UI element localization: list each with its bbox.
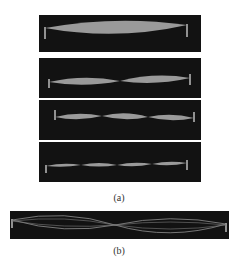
standing-wave-2-loops — [39, 58, 201, 98]
standing-wave-panel-mode-4 — [39, 142, 201, 182]
standing-wave-1-loop — [39, 15, 201, 52]
standing-wave-4-loops — [39, 142, 201, 182]
standing-wave-panel-mode-3 — [39, 100, 201, 140]
standing-wave-panel-mode-2 — [39, 58, 201, 98]
standing-wave-3-loops — [39, 100, 201, 140]
standing-wave-panel-mode-1 — [39, 15, 201, 52]
superposed-standing-wave — [10, 211, 229, 239]
caption-b: (b) — [104, 245, 134, 256]
caption-a: (a) — [104, 192, 134, 203]
superposed-wave-panel — [10, 211, 229, 239]
